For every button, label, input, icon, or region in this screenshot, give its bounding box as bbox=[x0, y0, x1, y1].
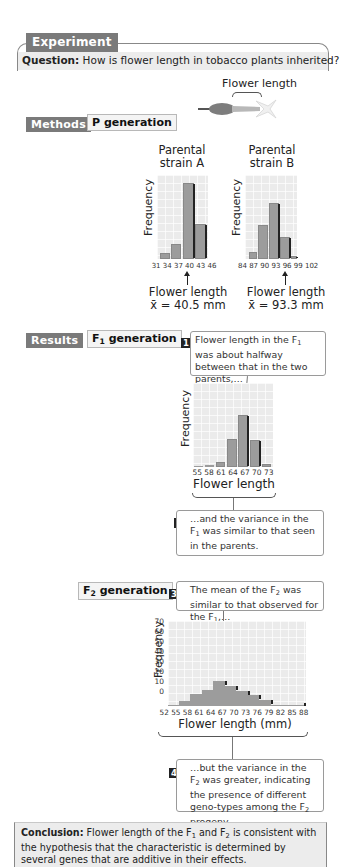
strain-b-bar bbox=[258, 225, 268, 259]
strain-b-xticks: 84 87 90 93 96 99 102 bbox=[238, 262, 318, 270]
strain-b-title-line2: strain B bbox=[240, 157, 304, 170]
f2-bar bbox=[225, 686, 236, 706]
strain-a-bar bbox=[160, 253, 170, 259]
question-label: Question: bbox=[22, 54, 79, 66]
callout-2: …and the variance in the F1 was similar … bbox=[176, 510, 324, 556]
p-generation-label: P generation bbox=[87, 114, 177, 131]
strain-b-mean: x̄ = 93.3 mm bbox=[244, 299, 328, 312]
f1-ylabel: Frequency bbox=[179, 389, 192, 449]
f2-bar bbox=[190, 694, 202, 706]
callout-1: Flower length in the F1 was about halfwa… bbox=[190, 331, 326, 376]
conclusion-box: Conclusion: Flower length of the F1 and … bbox=[14, 822, 327, 867]
strain-a-mean: x̄ = 40.5 mm bbox=[148, 299, 228, 312]
callout-4: …but the variance in the F2 was greater,… bbox=[176, 759, 324, 812]
conclusion-label: Conclusion: bbox=[21, 827, 84, 838]
question-text: How is flower length in tobacco plants i… bbox=[79, 54, 339, 66]
callout-4-pointer bbox=[232, 737, 233, 759]
f1-bar bbox=[205, 465, 214, 467]
strain-b-bar bbox=[280, 237, 290, 259]
f2-bar bbox=[236, 691, 248, 706]
strain-a-bar bbox=[183, 183, 194, 259]
f1-brace bbox=[192, 493, 276, 498]
strain-b-title: Parental strain B bbox=[240, 144, 304, 170]
f2-bar bbox=[271, 705, 294, 706]
strain-a-xticks: 31 34 37 40 43 46 bbox=[147, 262, 221, 270]
f2-bar bbox=[179, 701, 190, 706]
f1-bar bbox=[227, 439, 237, 467]
strain-b-bar bbox=[249, 252, 257, 259]
strain-a-title-line2: strain A bbox=[150, 157, 214, 170]
f1-chart bbox=[193, 383, 273, 467]
f1-generation-label: F1 generation bbox=[87, 330, 182, 348]
f2-brace bbox=[158, 732, 308, 737]
callout-3: The mean of the F2 was similar to that o… bbox=[176, 581, 324, 611]
methods-label: Methods bbox=[26, 117, 91, 132]
f1-xlabel: Flower length bbox=[188, 478, 280, 491]
strain-a-chart bbox=[157, 175, 208, 259]
question-bar: Question: How is flower length in tobacc… bbox=[18, 52, 328, 70]
strain-b-chart bbox=[245, 175, 297, 259]
strain-a-bar bbox=[195, 224, 206, 259]
flower-length-label: Flower length bbox=[222, 77, 297, 90]
f2-bar bbox=[248, 695, 259, 706]
results-label: Results bbox=[26, 333, 83, 348]
strain-a-bar bbox=[171, 244, 181, 259]
f1-bar bbox=[216, 462, 225, 467]
f2-xticks: 52 55 58 61 64 67 70 73 76 79 82 85 88 bbox=[155, 708, 313, 717]
strain-a-arrowhead-icon bbox=[184, 271, 190, 276]
f1-xticks: 55 58 61 64 67 70 73 bbox=[188, 468, 278, 477]
f2-bar bbox=[202, 690, 213, 706]
strain-b-ylabel: Frequency bbox=[230, 178, 243, 238]
strain-b-arrowhead-icon bbox=[282, 271, 288, 276]
f2-bar bbox=[168, 705, 179, 706]
strain-b-bar bbox=[291, 256, 297, 259]
tobacco-flower-icon bbox=[198, 98, 278, 120]
f2-bar bbox=[259, 700, 271, 706]
strain-a-ylabel: Frequency bbox=[142, 178, 155, 238]
f1-bar bbox=[194, 466, 203, 467]
f1-bar bbox=[250, 440, 260, 467]
f2-bar bbox=[294, 705, 304, 706]
f2-xlabel: Flower length (mm) bbox=[170, 718, 300, 731]
f2-yticks: 70 60 50 40 30 20 10 0 bbox=[152, 617, 164, 697]
flower-length-brace bbox=[232, 92, 262, 97]
f2-bar bbox=[213, 681, 225, 706]
f1-bar bbox=[262, 464, 271, 467]
strain-a-title: Parental strain A bbox=[150, 144, 214, 170]
f1-bar bbox=[238, 415, 248, 467]
strain-b-bar bbox=[269, 203, 279, 259]
experiment-label: Experiment bbox=[26, 33, 118, 52]
f2-generation-label: F2 generation bbox=[78, 582, 173, 600]
f2-chart bbox=[168, 621, 306, 706]
